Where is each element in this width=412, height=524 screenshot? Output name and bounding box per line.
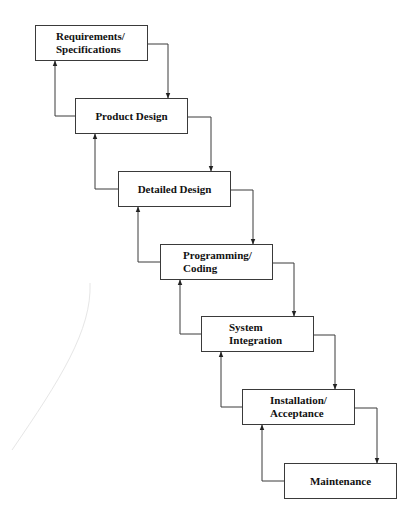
stage-requirements: Requirements/ Specifications <box>35 25 148 61</box>
stage-system-integration: System Integration <box>201 316 314 352</box>
stage-label-line: Programming/ <box>183 249 252 262</box>
stage-label-line: Product Design <box>95 110 167 123</box>
stage-detailed-design: Detailed Design <box>118 171 231 207</box>
stage-label-line: Requirements/ <box>56 30 125 43</box>
scan-artifact-curve <box>12 283 90 450</box>
stage-label-line: Specifications <box>56 43 121 56</box>
forward-arrow <box>355 408 377 463</box>
feedback-arrow <box>262 425 284 481</box>
stage-label-line: Detailed Design <box>138 183 212 196</box>
feedback-arrow <box>55 61 75 116</box>
forward-arrow <box>231 190 253 244</box>
stage-label-line: Maintenance <box>310 475 371 488</box>
forward-arrow <box>273 263 294 316</box>
stage-programming-coding: Programming/ Coding <box>160 244 273 280</box>
stage-label-line: Installation/ <box>270 394 327 407</box>
stage-label-line: Integration <box>229 334 282 347</box>
waterfall-diagram: Requirements/ Specifications Product Des… <box>0 0 412 524</box>
stage-maintenance: Maintenance <box>284 463 397 499</box>
stage-label-line: Coding <box>183 262 217 275</box>
stage-label-line: System <box>229 321 263 334</box>
forward-arrow <box>314 335 335 389</box>
stage-installation-acceptance: Installation/ Acceptance <box>242 389 355 425</box>
feedback-arrow <box>180 280 201 334</box>
forward-arrow <box>188 117 211 171</box>
forward-arrow <box>148 44 168 98</box>
feedback-arrow <box>138 207 160 262</box>
stage-label-line: Acceptance <box>270 407 324 420</box>
stage-product-design: Product Design <box>75 98 188 134</box>
feedback-arrow <box>221 352 242 407</box>
feedback-arrow <box>95 134 118 189</box>
